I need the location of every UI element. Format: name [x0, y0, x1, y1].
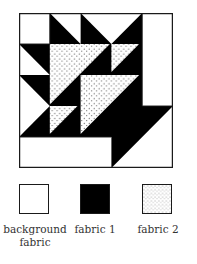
- legend-swatch-background: [19, 184, 49, 214]
- legend-label-line: fabric: [0, 236, 70, 249]
- legend-swatch-fabric1: [80, 184, 110, 214]
- legend-label-line: fabric 1: [60, 223, 130, 236]
- legend-label-fabric2: fabric 2: [123, 223, 193, 236]
- legend-label-fabric1: fabric 1: [60, 223, 130, 236]
- legend-label-line: fabric 2: [123, 223, 193, 236]
- legend-swatch-fabric2: [142, 184, 172, 214]
- quilt-block-diagram: [19, 13, 173, 168]
